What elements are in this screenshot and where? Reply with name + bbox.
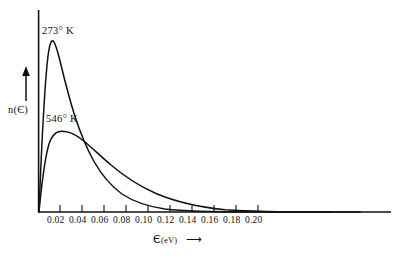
y-axis-arrow-icon <box>22 66 30 101</box>
x-tick-label: 0.08 <box>113 216 130 226</box>
x-tick-label-text: 0.08 <box>113 215 130 225</box>
x-tick-label: 0.14 <box>179 216 196 226</box>
x-tick-label-text: 0.20 <box>245 215 262 225</box>
curve-label-273k: 273° K <box>42 26 74 37</box>
x-tick-label-text: 0.14 <box>179 215 196 225</box>
energy-distribution-figure: 273° K 546° K n(Є) 0.02 0.04 0.06 0.08 0… <box>0 0 404 259</box>
x-tick-label-text: 0.06 <box>91 215 108 225</box>
x-tick-label-text: 0.10 <box>135 215 152 225</box>
x-tick-label: 0.10 <box>135 216 152 226</box>
x-tick-label: 0.12 <box>157 216 174 226</box>
x-tick-label-text: 0.16 <box>201 215 218 225</box>
x-axis-title: Є(eV) ⟶ <box>153 234 202 245</box>
x-tick-label-text: 0.18 <box>223 215 240 225</box>
x-axis-title-unit: (eV) <box>161 235 177 245</box>
x-axis-arrow-icon: ⟶ <box>186 233 202 245</box>
x-tick-label: 0.04 <box>69 216 86 226</box>
x-tick-label-text: 0.12 <box>157 215 174 225</box>
curve-label-546k-text: 546° K <box>46 113 78 124</box>
x-tick-label: 0.20 <box>245 216 262 226</box>
x-tick-label-text: 0.04 <box>69 215 86 225</box>
y-axis-title-text: n(Є) <box>8 104 28 115</box>
x-tick-label: 0.16 <box>201 216 218 226</box>
x-tick-label-text: 0.02 <box>47 215 64 225</box>
curve-273k <box>39 41 330 212</box>
curve-label-546k: 546° K <box>46 114 78 125</box>
x-tick-label: 0.18 <box>223 216 240 226</box>
x-axis-title-symbol: Є <box>153 233 161 246</box>
x-tick-label: 0.06 <box>91 216 108 226</box>
x-tick-label: 0.02 <box>47 216 64 226</box>
y-axis-title: n(Є) <box>8 105 28 116</box>
curve-546k <box>39 131 360 212</box>
curve-label-273k-text: 273° K <box>42 25 74 36</box>
